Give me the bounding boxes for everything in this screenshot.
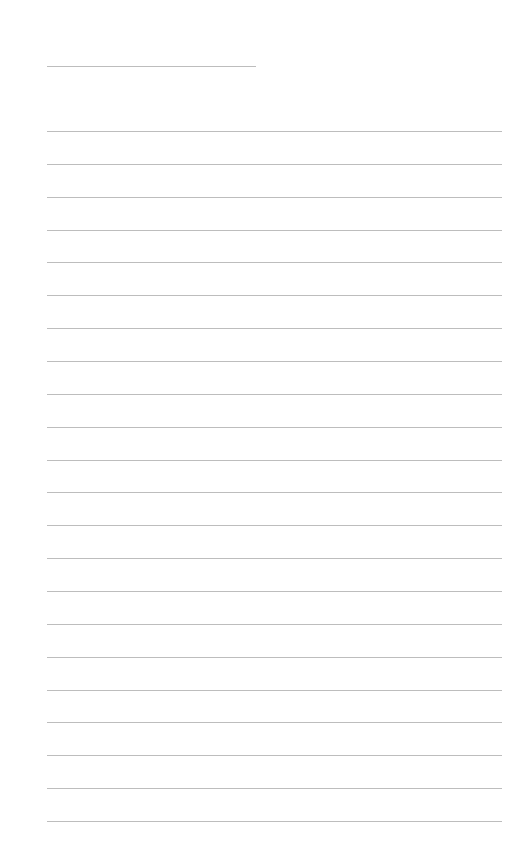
ruled-line xyxy=(47,295,502,296)
title-line xyxy=(47,66,256,67)
ruled-line xyxy=(47,624,502,625)
ruled-line xyxy=(47,788,502,789)
ruled-line xyxy=(47,755,502,756)
ruled-line xyxy=(47,558,502,559)
ruled-line xyxy=(47,722,502,723)
ruled-line xyxy=(47,427,502,428)
ruled-line xyxy=(47,262,502,263)
ruled-line xyxy=(47,164,502,165)
ruled-line xyxy=(47,197,502,198)
ruled-line xyxy=(47,821,502,822)
ruled-line xyxy=(47,657,502,658)
ruled-line xyxy=(47,328,502,329)
ruled-line xyxy=(47,460,502,461)
ruled-line xyxy=(47,230,502,231)
ruled-line xyxy=(47,591,502,592)
ruled-line xyxy=(47,361,502,362)
ruled-line xyxy=(47,525,502,526)
ruled-line xyxy=(47,690,502,691)
ruled-line xyxy=(47,492,502,493)
ruled-line xyxy=(47,394,502,395)
ruled-line xyxy=(47,131,502,132)
